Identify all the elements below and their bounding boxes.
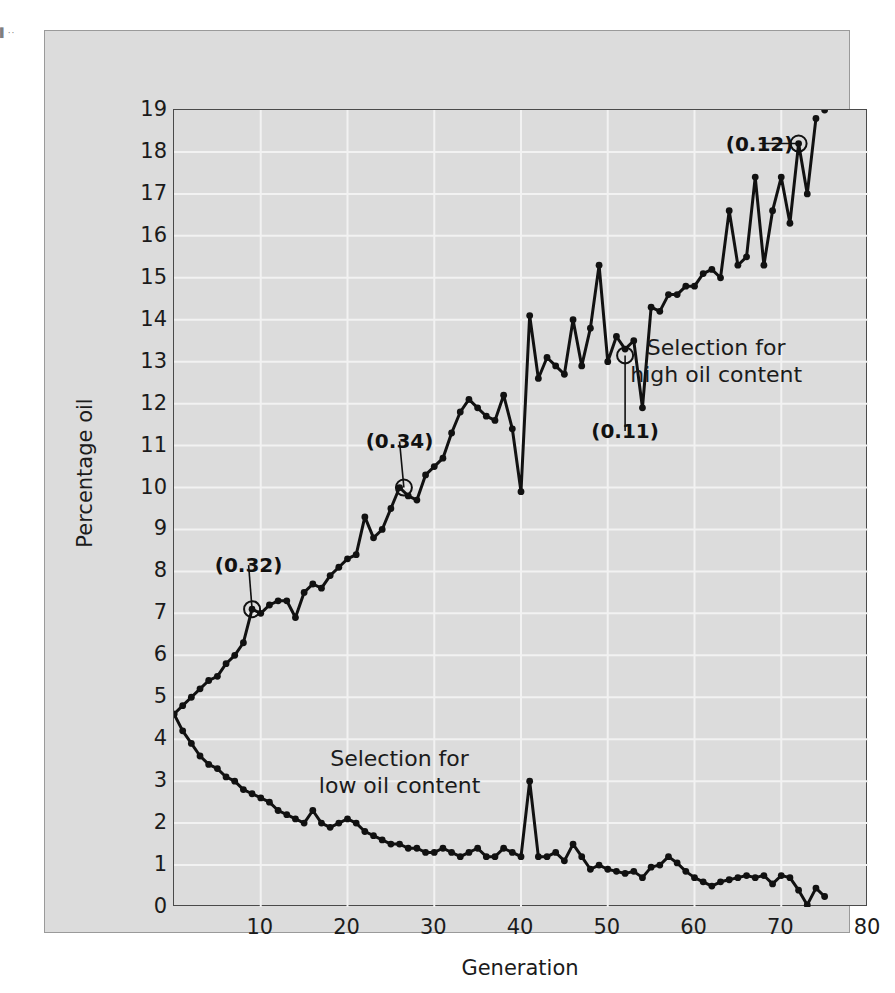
y-tick-label: 19 — [121, 97, 167, 121]
x-axis-title: Generation — [173, 956, 867, 980]
chart-svg — [174, 110, 868, 907]
x-tick-label: 50 — [577, 915, 637, 939]
plot-area: (0.32)(0.34)(0.11)(0.12)Selection for hi… — [173, 109, 867, 906]
x-tick-label: 10 — [230, 915, 290, 939]
gridlines — [174, 110, 868, 907]
y-tick-label: 10 — [121, 475, 167, 499]
y-tick-label: 1 — [121, 852, 167, 876]
series-label: Selection for high oil content — [630, 335, 802, 389]
x-tick-label: 70 — [750, 915, 810, 939]
series-high-oil — [174, 110, 828, 717]
annotation-label: (0.12) — [726, 132, 794, 156]
y-tick-label: 7 — [121, 600, 167, 624]
page-edge-text-sliver: ▌ · · ▌ ▌ · · — [0, 20, 14, 240]
x-tick-label: 30 — [403, 915, 463, 939]
y-tick-label: 15 — [121, 265, 167, 289]
y-axis-tick-labels: 012345678910111213141516171819 — [111, 109, 167, 906]
x-tick-label: 40 — [490, 915, 550, 939]
y-tick-label: 3 — [121, 768, 167, 792]
y-tick-label: 9 — [121, 516, 167, 540]
x-tick-label: 80 — [837, 915, 895, 939]
series-label: Selection for low oil content — [319, 746, 480, 800]
y-tick-label: 17 — [121, 181, 167, 205]
annotation-label: (0.34) — [366, 429, 434, 453]
y-tick-label: 16 — [121, 223, 167, 247]
y-tick-label: 6 — [121, 642, 167, 666]
y-tick-label: 4 — [121, 726, 167, 750]
figure-panel: Percentage oil Generation 01234567891011… — [44, 30, 850, 933]
annotation-label: (0.11) — [591, 419, 659, 443]
x-axis-tick-labels: 1020304050607080 — [173, 915, 867, 945]
annotation-label: (0.32) — [215, 553, 283, 577]
y-tick-label: 5 — [121, 684, 167, 708]
y-axis-title: Percentage oil — [73, 373, 97, 573]
y-tick-label: 13 — [121, 349, 167, 373]
y-tick-label: 8 — [121, 558, 167, 582]
y-tick-label: 11 — [121, 433, 167, 457]
x-tick-label: 60 — [664, 915, 724, 939]
y-tick-label: 2 — [121, 810, 167, 834]
y-tick-label: 0 — [121, 894, 167, 918]
x-tick-label: 20 — [317, 915, 377, 939]
y-tick-label: 18 — [121, 139, 167, 163]
y-tick-label: 14 — [121, 307, 167, 331]
y-tick-label: 12 — [121, 391, 167, 415]
